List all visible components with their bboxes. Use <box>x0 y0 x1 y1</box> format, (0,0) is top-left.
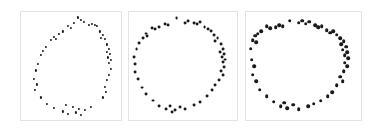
scatter-point <box>42 50 44 52</box>
scatter-point <box>347 57 351 61</box>
scatter-point <box>205 95 208 98</box>
scatter-panel-3 <box>245 11 362 121</box>
scatter-point <box>53 107 55 109</box>
scatter-point <box>342 70 346 74</box>
scatter-point <box>312 102 316 106</box>
plot-area-3 <box>246 12 361 120</box>
scatter-point <box>258 88 262 92</box>
scatter-point <box>196 22 199 25</box>
scatter-point <box>33 78 35 80</box>
scatter-point <box>62 30 64 32</box>
scatter-point <box>137 42 140 45</box>
scatter-point <box>55 38 57 40</box>
scatter-point <box>91 23 93 25</box>
scatter-point <box>288 19 292 23</box>
scatter-point <box>102 96 104 98</box>
scatter-point <box>214 40 217 43</box>
scatter-point <box>184 21 187 24</box>
scatter-point <box>164 108 167 111</box>
scatter-point <box>199 100 202 103</box>
scatter-point <box>339 75 343 79</box>
scatter-point <box>50 39 52 41</box>
scatter-point <box>151 99 154 102</box>
scatter-point <box>214 84 217 87</box>
scatter-point <box>319 99 323 103</box>
scatter-point <box>83 21 85 23</box>
scatter-point <box>268 26 272 30</box>
scatter-point <box>174 109 177 112</box>
scatter-point <box>166 24 169 27</box>
scatter-point <box>106 51 108 53</box>
scatter-point <box>158 105 161 108</box>
scatter-point <box>222 47 225 50</box>
scatter-point <box>40 96 42 98</box>
scatter-point <box>136 78 139 81</box>
scatter-point <box>250 58 254 62</box>
scatter-point <box>40 54 42 56</box>
scatter-point <box>141 86 144 89</box>
scatter-point <box>213 33 216 36</box>
scatter-point <box>219 43 222 46</box>
scatter-point <box>282 101 286 105</box>
scatter-point <box>249 47 253 51</box>
scatter-point <box>259 30 263 34</box>
scatter-point <box>45 45 47 47</box>
scatter-point <box>252 64 256 68</box>
scatter-point <box>134 71 137 74</box>
scatter-point <box>58 33 60 35</box>
scatter-point <box>108 74 110 76</box>
scatter-point <box>107 56 109 58</box>
scatter-point <box>217 79 220 82</box>
scatter-point <box>109 53 111 55</box>
scatter-point <box>99 30 101 32</box>
scatter-point <box>70 27 72 29</box>
scatter-point <box>344 45 348 49</box>
scatter-point <box>62 110 64 112</box>
scatter-point <box>67 25 69 27</box>
scatter-point <box>80 18 82 20</box>
scatter-point <box>142 36 145 39</box>
scatter-point <box>78 108 80 110</box>
scatter-point <box>265 24 269 28</box>
scatter-point <box>104 38 106 40</box>
scatter-point <box>187 19 190 22</box>
scatter-point <box>104 85 106 87</box>
scatter-point <box>73 22 75 24</box>
scatter-point <box>291 103 295 107</box>
scatter-point <box>255 79 259 83</box>
scatter-point <box>272 100 276 104</box>
scatter-panel-2 <box>128 11 238 121</box>
scatter-point <box>265 94 269 98</box>
scatter-point <box>77 16 79 18</box>
scatter-point <box>279 104 283 108</box>
scatter-point <box>306 104 310 108</box>
scatter-panel-1 <box>20 11 122 121</box>
scatter-point <box>67 112 69 114</box>
scatter-point <box>211 88 214 91</box>
scatter-point <box>171 111 174 114</box>
scatter-point <box>297 107 301 111</box>
scatter-point <box>218 51 221 54</box>
scatter-point <box>80 114 82 116</box>
scatter-point <box>100 37 102 39</box>
scatter-point <box>255 40 259 44</box>
scatter-point <box>330 90 334 94</box>
scatter-point <box>105 91 107 93</box>
scatter-point <box>110 68 112 70</box>
scatter-point <box>210 30 213 33</box>
scatter-point <box>178 106 181 109</box>
scatter-point <box>335 84 339 88</box>
scatter-point <box>341 79 345 83</box>
scatter-point <box>251 73 255 77</box>
scatter-point <box>108 62 110 64</box>
scatter-point <box>307 20 311 24</box>
scatter-point <box>34 89 36 91</box>
scatter-point <box>75 111 77 113</box>
scatter-point <box>90 106 92 108</box>
scatter-point <box>96 25 98 27</box>
plot-area-2 <box>129 12 237 120</box>
scatter-point <box>340 43 344 47</box>
scatter-point <box>222 73 225 76</box>
scatter-point <box>169 105 172 108</box>
scatter-point <box>37 63 39 65</box>
